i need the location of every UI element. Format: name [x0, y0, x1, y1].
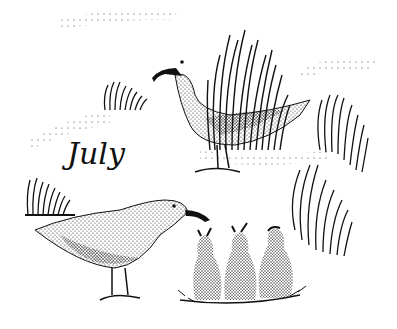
grass-tuft-lower-left [25, 178, 75, 215]
month-caption: July [67, 136, 125, 171]
illustration [0, 0, 397, 329]
gull-chicks [178, 223, 306, 303]
grass-tuft-left [104, 82, 147, 110]
grass-tuft-lower-right [292, 165, 352, 256]
